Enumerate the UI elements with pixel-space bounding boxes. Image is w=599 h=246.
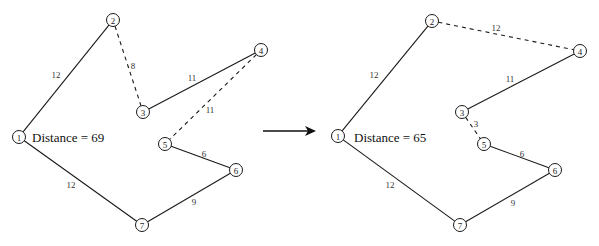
tour-improvement-diagram: 128111169121234567Distance = 69 12121136… [0,0,599,246]
edge-weight-label: 12 [67,180,76,190]
node-2: 2 [107,14,120,27]
node-label: 6 [234,166,239,176]
node-label: 6 [553,166,558,176]
node-5: 5 [478,138,491,151]
node-label: 1 [17,133,22,143]
node-label: 5 [163,140,168,150]
edge-weight-label: 8 [131,61,136,71]
edge-6-7 [148,173,231,221]
edge-7-1 [343,140,454,221]
edge-weight-label: 12 [52,70,61,80]
node-label: 5 [482,140,487,150]
node-label: 3 [141,108,146,118]
edge-weight-label: 11 [188,73,197,83]
node-7: 7 [136,219,149,232]
node-4: 4 [255,44,268,57]
edge-2-3-dashed [115,26,141,106]
node-6: 6 [549,164,562,177]
node-label: 7 [458,221,463,231]
transition-arrow-icon [263,126,316,136]
node-2: 2 [426,15,439,28]
node-5: 5 [159,138,172,151]
node-label: 1 [336,132,341,142]
edge-7-1 [24,141,136,221]
edge-4-3 [468,54,574,109]
node-1: 1 [332,130,345,143]
graph-before: 128111169121234567Distance = 69 [13,14,268,232]
node-3: 3 [137,106,150,119]
edge-1-2 [23,25,109,132]
node-label: 3 [460,108,465,118]
edge-weight-label: 12 [386,180,395,190]
edge-5-6 [171,146,230,168]
edge-weight-label: 12 [492,23,501,33]
node-4: 4 [574,45,587,58]
edge-6-7 [466,173,550,221]
edge-weight-label: 6 [202,149,207,159]
node-7: 7 [454,219,467,232]
distance-label: Distance = 69 [32,130,104,145]
edge-weight-label: 12 [370,70,379,80]
edge-weight-label: 6 [520,149,525,159]
edge-weight-label: 9 [192,197,197,207]
node-label: 2 [430,17,435,27]
node-label: 4 [259,46,264,56]
edge-4-5-dashed [170,55,257,140]
graph-after: 121211369121234567Distance = 65 [332,15,587,232]
edge-weight-label: 11 [206,105,215,115]
edge-1-2 [342,26,428,131]
node-label: 7 [140,221,145,231]
edge-weight-label: 9 [511,198,516,208]
edge-2-4-dashed [438,22,573,49]
edge-3-4 [149,53,255,109]
node-3: 3 [456,106,469,119]
edge-weight-label: 3 [474,119,479,129]
node-label: 4 [578,47,583,57]
edge-weight-label: 11 [506,74,515,84]
node-label: 2 [111,16,116,26]
node-1: 1 [13,131,26,144]
distance-label: Distance = 65 [354,130,426,145]
node-6: 6 [230,164,243,177]
